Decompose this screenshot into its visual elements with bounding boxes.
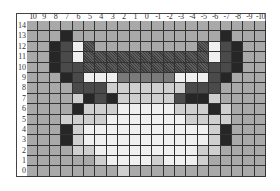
grid-cell [255, 115, 266, 125]
grid-cell [38, 115, 49, 125]
grid-cell [164, 125, 175, 135]
row-label: 3 [16, 135, 27, 145]
grid-cell [61, 156, 72, 166]
grid-cell [164, 156, 175, 166]
grid-cell [84, 73, 95, 83]
grid-cell [198, 83, 209, 93]
grid-cell [107, 146, 118, 156]
grid-cell [73, 94, 84, 104]
grid-cell [50, 73, 61, 83]
grid-cell [50, 146, 61, 156]
grid-cell [255, 52, 266, 62]
row-label: 6 [16, 104, 27, 114]
grid-cell [175, 135, 186, 145]
grid-cell [118, 156, 129, 166]
grid-cell [175, 94, 186, 104]
grid-cell [50, 115, 61, 125]
grid-cell [61, 63, 72, 73]
grid-cell [141, 125, 152, 135]
grid-cell [107, 115, 118, 125]
grid-cell [209, 104, 220, 114]
grid-cell [84, 115, 95, 125]
grid-cell [221, 156, 232, 166]
grid-cell [73, 52, 84, 62]
grid-cell [152, 166, 163, 176]
grid-cell [164, 73, 175, 83]
grid-cell [198, 104, 209, 114]
grid-cell [38, 135, 49, 145]
grid-cell [164, 115, 175, 125]
grid-cell [73, 42, 84, 52]
grid-cell [186, 83, 197, 93]
grid-cell [232, 73, 243, 83]
column-label: -1 [152, 13, 163, 21]
grid-cell [141, 52, 152, 62]
grid-cell [27, 104, 38, 114]
grid-cell [84, 83, 95, 93]
grid-cell [118, 104, 129, 114]
grid-cell [27, 42, 38, 52]
grid-cell [164, 31, 175, 41]
grid-cell [61, 125, 72, 135]
grid-cell [50, 166, 61, 176]
grid-cell [73, 125, 84, 135]
grid-cell [221, 21, 232, 31]
grid-cell [243, 52, 254, 62]
grid-cell [255, 83, 266, 93]
grid-cell [38, 125, 49, 135]
grid-cell [84, 146, 95, 156]
grid-cell [255, 146, 266, 156]
grid-cell [209, 52, 220, 62]
grid-cell [95, 94, 106, 104]
grid-cell [27, 166, 38, 176]
grid-cell [118, 52, 129, 62]
grid-cell [118, 83, 129, 93]
grid-cell [38, 63, 49, 73]
grid-cell [243, 63, 254, 73]
grid-cell [243, 166, 254, 176]
grid-cell [186, 63, 197, 73]
grid-cell [118, 135, 129, 145]
grid-cell [130, 125, 141, 135]
column-label: 6 [73, 13, 84, 21]
grid-cell [232, 166, 243, 176]
pixel-grid [27, 21, 266, 177]
grid-cell [209, 21, 220, 31]
grid-cell [198, 52, 209, 62]
grid-cell [164, 83, 175, 93]
grid-cell [27, 83, 38, 93]
grid-cell [95, 104, 106, 114]
grid-cell [118, 42, 129, 52]
row-label: 4 [16, 125, 27, 135]
column-label: -4 [186, 13, 197, 21]
grid-cell [232, 42, 243, 52]
grid-cell [243, 125, 254, 135]
grid-cell [186, 135, 197, 145]
grid-cell [61, 52, 72, 62]
column-label: -6 [209, 13, 220, 21]
grid-cell [130, 94, 141, 104]
column-label: -5 [198, 13, 209, 21]
grid-cell [130, 21, 141, 31]
grid-cell [95, 135, 106, 145]
grid-cell [175, 31, 186, 41]
grid-cell [118, 21, 129, 31]
grid-cell [209, 125, 220, 135]
grid-cell [243, 42, 254, 52]
grid-cell [255, 21, 266, 31]
grid-cell [95, 146, 106, 156]
grid-cell [107, 166, 118, 176]
grid-cell [107, 104, 118, 114]
grid-cell [95, 83, 106, 93]
grid-cell [243, 135, 254, 145]
grid-cell [221, 166, 232, 176]
grid-cell [243, 104, 254, 114]
column-label: -10 [255, 13, 266, 21]
grid-cell [164, 135, 175, 145]
grid-cell [175, 115, 186, 125]
grid-cell [107, 52, 118, 62]
grid-cell [130, 73, 141, 83]
column-label: -9 [243, 13, 254, 21]
column-label: 5 [84, 13, 95, 21]
grid-cell [107, 156, 118, 166]
